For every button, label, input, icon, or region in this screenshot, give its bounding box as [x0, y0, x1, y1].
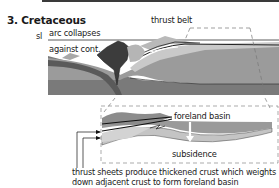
sea-level-label: sl [36, 31, 42, 41]
cross-section-diagram [0, 0, 279, 188]
caption-line-1: thrust sheets produce thickened crust wh… [72, 167, 276, 177]
arrow-head-icon [96, 130, 101, 134]
caption-line-2: down adjacent crust to form foreland bas… [72, 177, 276, 187]
subsidence-label: subsidence [172, 149, 217, 159]
against-continent-label: against cont. [49, 44, 100, 54]
figure-caption: thrust sheets produce thickened crust wh… [72, 167, 276, 187]
arc-collapses-label: arc collapses [49, 28, 100, 38]
arrow-head-icon [96, 136, 101, 140]
thrust-belt-label: thrust belt [151, 15, 192, 25]
foreland-basin-label: foreland basin [174, 111, 230, 121]
